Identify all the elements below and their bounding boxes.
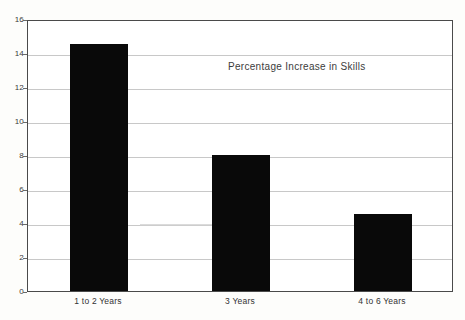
scan-artifact: [140, 224, 214, 226]
bar: [70, 44, 128, 291]
y-axis-tick-mark: [23, 292, 27, 293]
x-axis-tick-label: 3 Years: [169, 296, 311, 306]
x-axis-tick-label: 4 to 6 Years: [311, 296, 453, 306]
x-axis-tick-label: 1 to 2 Years: [27, 296, 169, 306]
bar: [212, 155, 270, 291]
chart-title: Percentage Increase in Skills: [228, 61, 366, 72]
y-axis-tick-marks: [0, 20, 27, 292]
bar-chart-figure: 0246810121416 Percentage Increase in Ski…: [0, 0, 465, 320]
bar: [354, 214, 412, 291]
x-axis-tick-labels: 1 to 2 Years3 Years4 to 6 Years: [27, 296, 453, 312]
